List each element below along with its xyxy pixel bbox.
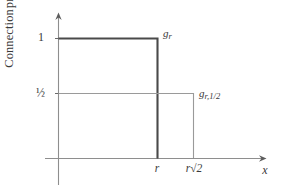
y-axis-title-line-1: Connection xyxy=(2,9,16,68)
x-tick-label-r: r xyxy=(155,163,159,175)
curve-label-g-r-half: gr,1/2 xyxy=(199,88,220,100)
x-tick-label-r-sqrt2: r√2 xyxy=(186,163,203,175)
x-axis-label: x xyxy=(262,164,267,176)
y-tick-label-half: ½ xyxy=(36,87,45,99)
curve-label-g-r-half-subscript: r,1/2 xyxy=(205,91,221,101)
curve-g-r-half-path xyxy=(59,94,194,159)
curve-label-g-r: gr xyxy=(163,28,172,40)
connection-probability-figure: 1 ½ r r√2 x gr gr,1/2 Connection probabi… xyxy=(0,0,281,194)
curve-g-r-half xyxy=(59,94,194,159)
y-axis-title-line-2: probability xyxy=(2,0,16,8)
y-tick-label-one: 1 xyxy=(38,31,44,43)
curve-label-g-r-subscript: r xyxy=(169,31,172,41)
y-axis-title: Connection probability xyxy=(2,0,30,66)
tick-marks-group xyxy=(55,39,194,159)
curve-g-r xyxy=(59,39,158,159)
curve-g-r-path xyxy=(59,39,158,159)
